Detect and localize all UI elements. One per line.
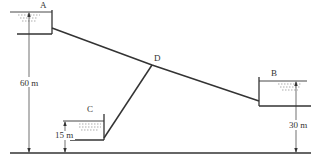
dimension-15m-label: 15 m [55,130,73,140]
arrow-up-icon [63,121,66,126]
pipe-d-c [104,65,152,138]
dimension-60m: 60 m [19,12,41,153]
reservoir-b: B [259,68,311,106]
reservoir-c-label: C [87,104,93,114]
dimension-60m-label: 60 m [20,78,38,88]
dimension-15m: 15 m [55,121,75,153]
arrow-up-icon [27,12,30,17]
pipe-d-b [152,65,259,101]
dimension-30m-label: 30 m [289,120,307,130]
water-hatch-icon [278,84,302,90]
reservoir-diagram: A B C D 60 m [0,0,317,164]
reservoir-a-label: A [40,0,47,10]
arrow-up-icon [294,81,297,86]
pipe-a-d [52,28,152,65]
water-hatch-icon [79,124,101,130]
dimension-30m: 30 m [288,81,310,153]
reservoir-b-label: B [271,68,277,78]
reservoir-a: A [10,0,52,34]
junction-d-label: D [154,53,161,63]
